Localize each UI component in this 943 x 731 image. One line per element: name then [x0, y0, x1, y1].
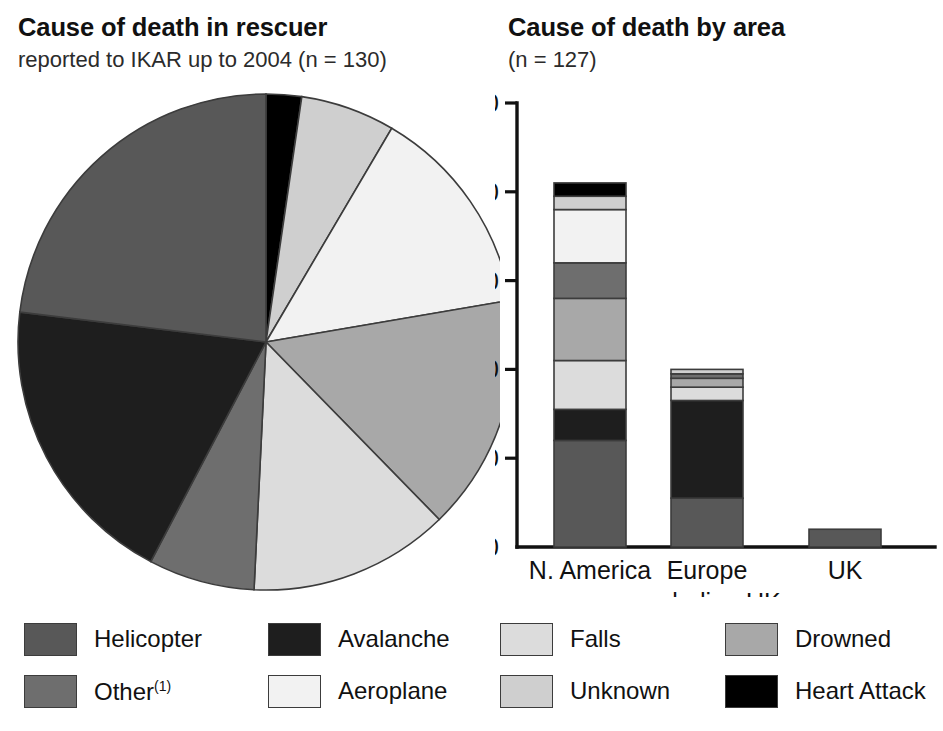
bar-column: [809, 529, 881, 547]
legend-label-unknown: Unknown: [570, 679, 670, 703]
y-axis-tick-label: 80: [495, 177, 499, 207]
bar-chart-ytick-labels: 020406080100: [495, 88, 499, 562]
legend-item-helicopter: Helicopter: [24, 616, 202, 662]
legend-item-unknown: Unknown: [500, 668, 670, 714]
bar-segment-unknown: [554, 196, 626, 209]
legend-label-avalanche: Avalanche: [338, 627, 450, 651]
legend-swatch-heart-attack: [725, 675, 778, 708]
y-axis-tick-label: 0: [495, 532, 499, 562]
legend-label-helicopter: Helicopter: [94, 627, 202, 651]
legend-swatch-other: [24, 675, 77, 708]
x-axis-category-label: N. America: [529, 556, 651, 584]
legend-label-other-text: Other: [94, 678, 154, 705]
legend-item-drowned: Drowned: [725, 616, 891, 662]
pie-chart-subtitle: reported to IKAR up to 2004 (n = 130): [18, 47, 387, 73]
legend-swatch-unknown: [500, 675, 553, 708]
bar-column: [554, 183, 626, 547]
pie-chart: [0, 85, 500, 597]
legend-label-other: Other(1): [94, 679, 171, 704]
legend: Helicopter Other(1) Avalanche Aeroplane: [0, 608, 943, 726]
bar-segment-heart-attack: [554, 183, 626, 196]
bar-chart-subtitle: (n = 127): [508, 47, 597, 73]
legend-label-other-superscript: (1): [154, 678, 171, 694]
bar-chart: 020406080100 N. AmericaEuropeexcluding U…: [495, 85, 943, 597]
legend-item-other: Other(1): [24, 668, 171, 714]
y-axis-tick-label: 100: [495, 88, 499, 118]
bar-chart-columns: [554, 183, 881, 547]
legend-label-heart-attack: Heart Attack: [795, 679, 926, 703]
legend-item-falls: Falls: [500, 616, 621, 662]
legend-swatch-falls: [500, 623, 553, 656]
bar-chart-svg: 020406080100 N. AmericaEuropeexcluding U…: [495, 85, 943, 597]
figure-root: Cause of death in rescuer reported to IK…: [0, 0, 943, 731]
legend-swatch-helicopter: [24, 623, 77, 656]
pie-slice-group: [18, 94, 500, 590]
bar-segment-unknown: [671, 369, 743, 373]
legend-item-heart-attack: Heart Attack: [725, 668, 926, 714]
bar-segment-drowned: [554, 298, 626, 360]
legend-label-drowned: Drowned: [795, 627, 891, 651]
y-axis-tick-label: 40: [495, 354, 499, 384]
bar-segment-falls: [671, 387, 743, 400]
bar-segment-helicopter: [671, 498, 743, 547]
legend-swatch-drowned: [725, 623, 778, 656]
x-axis-category-label: UK: [828, 556, 863, 584]
pie-slice-helicopter: [20, 94, 266, 342]
bar-segment-other: [554, 263, 626, 299]
bar-segment-avalanche: [554, 409, 626, 440]
x-axis-category-label: Europe: [667, 556, 748, 584]
y-axis-tick-label: 20: [495, 443, 499, 473]
pie-chart-svg: [0, 85, 500, 597]
bar-segment-drowned: [671, 378, 743, 387]
bar-chart-category-labels: N. AmericaEuropeexcluding UKUK: [529, 556, 863, 597]
legend-label-falls: Falls: [570, 627, 621, 651]
legend-swatch-aeroplane: [268, 675, 321, 708]
bar-segment-helicopter: [809, 529, 881, 547]
bar-segment-avalanche: [671, 400, 743, 498]
bar-segment-falls: [554, 361, 626, 410]
legend-item-aeroplane: Aeroplane: [268, 668, 447, 714]
bar-segment-aeroplane: [554, 210, 626, 263]
y-axis-tick-label: 60: [495, 266, 499, 296]
legend-label-aeroplane: Aeroplane: [338, 679, 447, 703]
pie-chart-title: Cause of death in rescuer: [18, 13, 327, 42]
legend-swatch-avalanche: [268, 623, 321, 656]
bar-segment-helicopter: [554, 440, 626, 547]
bar-column: [671, 369, 743, 547]
x-axis-category-sublabel: excluding UK: [633, 588, 781, 597]
legend-item-avalanche: Avalanche: [268, 616, 450, 662]
bar-chart-title: Cause of death by area: [508, 13, 785, 42]
